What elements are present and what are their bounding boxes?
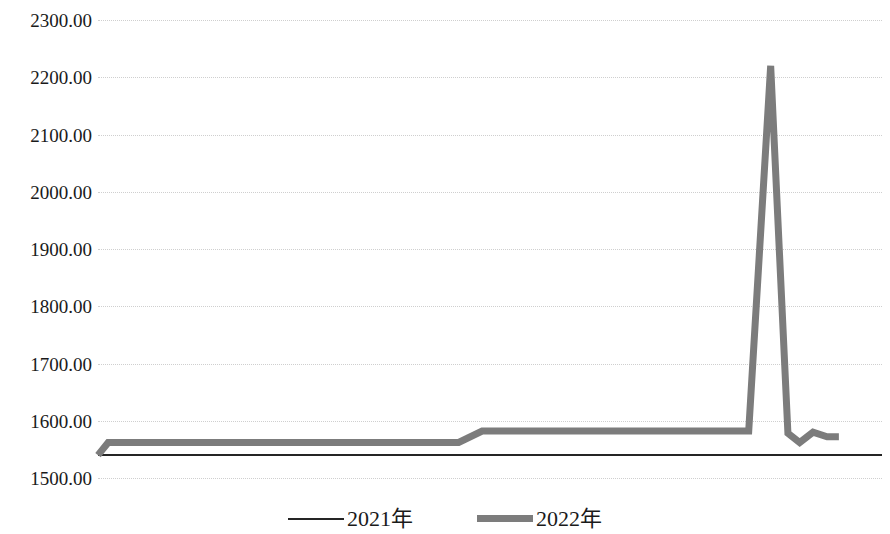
chart-legend: 2021年 2022年 [0,503,890,534]
legend-line-icon-2022 [477,515,533,522]
line-chart: 2300.002200.002100.002000.001900.001800.… [0,0,890,534]
y-tick-label-2200: 2200.00 [0,68,92,87]
y-tick-label-1500: 1500.00 [0,469,92,488]
legend-label-2021: 2021年 [347,508,413,530]
legend-label-2022: 2022年 [536,508,602,530]
y-tick-label-2300: 2300.00 [0,11,92,30]
legend-line-icon-2021 [288,518,344,520]
y-tick-label-2000: 2000.00 [0,183,92,202]
y-tick-label-1800: 1800.00 [0,297,92,316]
series-layer [98,0,882,500]
legend-entry-2021[interactable]: 2021年 [288,508,413,530]
y-tick-label-2100: 2100.00 [0,126,92,145]
y-tick-label-1700: 1700.00 [0,355,92,374]
series-line-2022年 [98,66,839,455]
legend-entry-2022[interactable]: 2022年 [477,508,602,530]
y-tick-label-1900: 1900.00 [0,240,92,259]
plot-area [98,0,882,500]
y-axis: 2300.002200.002100.002000.001900.001800.… [0,0,92,500]
y-tick-label-1600: 1600.00 [0,412,92,431]
